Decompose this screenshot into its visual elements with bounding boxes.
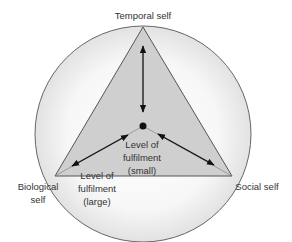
fulfilment-diagram: Temporal self Biological self Social sel… — [0, 0, 292, 242]
center-dot — [140, 123, 147, 130]
outer-label-3: (large) — [83, 196, 110, 207]
outer-label-1: Level of — [80, 170, 114, 181]
label-biological-self-2: self — [31, 194, 46, 205]
inner-label-3: (small) — [128, 165, 157, 176]
label-biological-self-1: Biological — [18, 181, 59, 192]
inner-label-1: Level of — [125, 139, 159, 150]
inner-label-2: fulfilment — [123, 152, 161, 163]
label-social-self: Social self — [235, 181, 279, 192]
outer-label-2: fulfilment — [78, 183, 116, 194]
label-temporal-self: Temporal self — [115, 10, 172, 21]
